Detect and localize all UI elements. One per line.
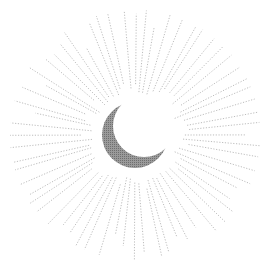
moon-sunburst-illustration — [0, 0, 266, 264]
sunburst-graphic — [0, 0, 266, 264]
crescent-moon-icon — [0, 0, 266, 264]
